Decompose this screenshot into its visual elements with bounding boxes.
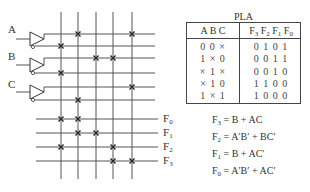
table-row-inputs: 1 × 0 — [187, 53, 239, 65]
input-label-a: A — [8, 24, 16, 35]
equation-f2: F2 = A′B′ + BC′ — [212, 131, 276, 146]
output-label-f3: F3 — [163, 155, 173, 170]
table-row-inputs: × 1 0 — [187, 78, 239, 90]
table-header-outputs: F3 F2 F1 F0 — [240, 25, 302, 40]
pla-table-title: PLA — [186, 12, 301, 22]
input-label-c: C — [8, 79, 15, 90]
buffer-triangle-icon — [30, 32, 44, 46]
table-row-outputs: 0 0 1 1 — [240, 53, 302, 65]
table-row-inputs: 1 × 1 — [187, 90, 239, 102]
buffer-triangle-icon — [30, 85, 44, 99]
table-row-inputs: 0 0 × — [187, 41, 239, 53]
equation-f0: F0 = A′B′ + AC′ — [212, 165, 276, 180]
inversion-bubble-icon — [31, 71, 34, 74]
input-label-b: B — [8, 51, 15, 62]
equation-f1: F1 = B + AC′ — [212, 148, 265, 163]
table-row-inputs: × 1 × — [187, 66, 239, 78]
table-header-inputs: A B C — [187, 25, 239, 36]
table-row-outputs: 1 1 0 0 — [240, 78, 302, 90]
pla-truth-table: A B C F3 F2 F1 F0 0 0 ×1 × 0× 1 ×× 1 01 … — [186, 22, 301, 104]
table-row-outputs: 0 0 1 0 — [240, 66, 302, 78]
equation-f3: F3 = B + AC — [212, 114, 262, 129]
table-input-rows: 0 0 ×1 × 0× 1 ×× 1 01 × 1 — [187, 41, 239, 102]
inversion-bubble-icon — [31, 45, 34, 48]
buffer-triangle-icon — [30, 58, 44, 72]
table-row-outputs: 0 1 0 1 — [240, 41, 302, 53]
inversion-bubble-icon — [31, 98, 34, 101]
table-output-rows: 0 1 0 10 0 1 10 0 1 01 1 0 01 0 0 0 — [240, 41, 302, 102]
table-row-outputs: 1 0 0 0 — [240, 90, 302, 102]
